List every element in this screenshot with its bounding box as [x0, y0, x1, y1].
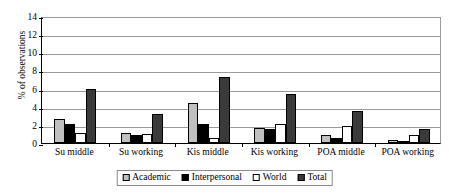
- bar-group: [375, 18, 442, 143]
- legend-swatch-icon: [182, 174, 189, 181]
- x-axis-label: POA working: [374, 147, 441, 157]
- x-axis-label: Kis middle: [174, 147, 241, 157]
- y-axis-title: % of observations: [17, 5, 27, 125]
- legend: AcademicInterpersonalWorldTotal: [116, 170, 333, 186]
- legend-swatch-icon: [297, 174, 304, 181]
- x-axis-label: POA middle: [308, 147, 375, 157]
- bar-group: [309, 18, 376, 143]
- bar: [265, 129, 276, 143]
- y-axis-tick-label: 8: [32, 68, 37, 78]
- bar-group: [242, 18, 309, 143]
- y-axis-tick-label: 12: [28, 31, 38, 41]
- x-axis-label: Su working: [108, 147, 175, 157]
- bar-chart: % of observations 02468101214 Su middleS…: [0, 0, 449, 193]
- legend-swatch-icon: [122, 174, 129, 181]
- bar: [331, 138, 342, 143]
- plot-area: 02468101214: [41, 17, 441, 144]
- y-axis-tick-label: 10: [28, 50, 38, 60]
- bar: [342, 126, 353, 143]
- bar-group: [42, 18, 109, 143]
- bar: [254, 128, 265, 143]
- legend-label: World: [263, 173, 287, 183]
- y-axis-tick-mark: [39, 145, 43, 146]
- legend-item: Academic: [122, 173, 171, 183]
- bar: [142, 134, 153, 143]
- x-axis-labels: Su middleSu workingKis middleKis working…: [41, 147, 441, 163]
- bar: [321, 135, 332, 143]
- bar: [65, 124, 76, 143]
- bar: [152, 114, 163, 143]
- bar: [121, 133, 132, 143]
- x-axis-label: Kis working: [241, 147, 308, 157]
- bar: [419, 129, 430, 143]
- bar: [409, 135, 420, 143]
- legend-item: Total: [297, 173, 326, 183]
- bar: [209, 138, 220, 143]
- bar: [286, 94, 297, 143]
- legend-label: Total: [307, 173, 326, 183]
- x-axis-label: Su middle: [41, 147, 108, 157]
- legend-label: Interpersonal: [192, 173, 242, 183]
- bar: [275, 124, 286, 143]
- y-axis-tick-label: 0: [32, 140, 37, 150]
- legend-item: Interpersonal: [182, 173, 242, 183]
- y-axis-tick-label: 4: [32, 104, 37, 114]
- bar-series-container: [42, 18, 440, 143]
- bar: [75, 133, 86, 143]
- bar-group: [109, 18, 176, 143]
- y-axis-tick-label: 2: [32, 122, 37, 132]
- legend-swatch-icon: [253, 174, 260, 181]
- bar: [188, 103, 199, 143]
- legend-label: Academic: [132, 173, 171, 183]
- bar: [352, 111, 363, 143]
- bar: [219, 77, 230, 143]
- bar: [54, 119, 65, 143]
- y-axis-tick-label: 14: [28, 13, 38, 23]
- bar: [198, 124, 209, 144]
- y-axis-tick-label: 6: [32, 86, 37, 96]
- legend-item: World: [253, 173, 287, 183]
- bar: [131, 135, 142, 143]
- bar: [86, 89, 97, 143]
- bar-group: [175, 18, 242, 143]
- bar: [388, 140, 399, 143]
- bar: [398, 141, 409, 143]
